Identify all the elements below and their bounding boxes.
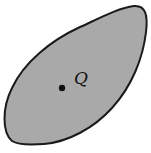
point-q-label: Q bbox=[74, 68, 88, 88]
diagram: Q bbox=[0, 0, 151, 153]
point-q bbox=[59, 85, 65, 91]
